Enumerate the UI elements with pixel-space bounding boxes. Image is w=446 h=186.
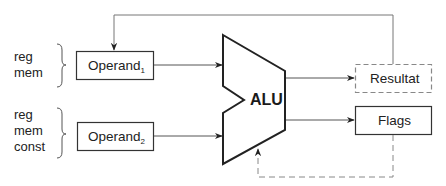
operand-1-label: Operand bbox=[88, 58, 141, 73]
source-label: mem bbox=[14, 65, 43, 80]
brace-2 bbox=[57, 108, 66, 158]
alu-block: ALU bbox=[223, 35, 285, 164]
operand-2-box: Operand2 bbox=[78, 123, 154, 151]
svg-text:Operand1: Operand1 bbox=[88, 58, 146, 75]
brace-1 bbox=[57, 44, 66, 87]
operand-2-subscript: 2 bbox=[141, 137, 146, 146]
resultat-label: Resultat bbox=[370, 71, 420, 86]
source-label: mem bbox=[14, 123, 43, 138]
source-group-2: reg mem const bbox=[14, 107, 66, 158]
source-label: reg bbox=[14, 107, 33, 122]
alu-label: ALU bbox=[250, 91, 283, 108]
alu-diagram: reg mem reg mem const Operand1 Operand2 … bbox=[0, 0, 446, 186]
flags-box: Flags bbox=[356, 107, 432, 135]
operand-2-label: Operand bbox=[88, 129, 141, 144]
source-group-1: reg mem bbox=[14, 44, 66, 87]
flags-label: Flags bbox=[378, 113, 411, 128]
source-label: const bbox=[14, 139, 45, 154]
operand-1-box: Operand1 bbox=[77, 52, 154, 80]
operand-1-subscript: 1 bbox=[141, 66, 146, 75]
feedback-flags-to-alu bbox=[258, 135, 393, 177]
source-label: reg bbox=[14, 49, 33, 64]
svg-text:Operand2: Operand2 bbox=[88, 129, 146, 146]
resultat-box: Resultat bbox=[356, 65, 432, 93]
